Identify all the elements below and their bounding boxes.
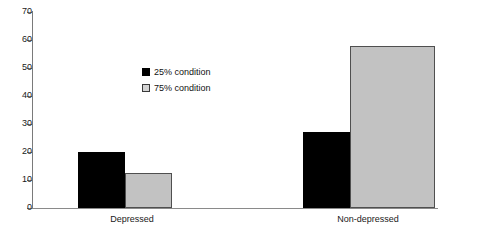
legend: 25% condition 75% condition [142,64,211,96]
bar-depressed-75 [125,173,172,208]
y-tick-label-70: 70 [10,7,32,16]
x-axis-label-depressed: Depressed [82,214,182,225]
bar-depressed-25 [78,152,125,208]
legend-swatch-icon-25 [142,68,150,76]
bar-chart: 70 60 50 40 30 20 10 0 [0,0,499,237]
x-axis-label-nondepressed: Non-depressed [318,214,418,225]
legend-item-25: 25% condition [142,64,211,80]
legend-swatch-icon-75 [142,84,150,92]
bar-nondepressed-25 [303,132,350,208]
plot-area: 70 60 50 40 30 20 10 0 [0,0,499,237]
y-axis-line [32,11,33,209]
y-tick-label-60: 60 [10,35,32,44]
legend-label-75: 75% condition [154,83,211,93]
legend-label-25: 25% condition [154,67,211,77]
y-tick-label-30: 30 [10,119,32,128]
y-tick-label-50: 50 [10,63,32,72]
y-tick-label-10: 10 [10,175,32,184]
y-tick-label-0: 0 [10,203,32,212]
x-axis-line [32,208,438,209]
bar-nondepressed-75 [350,46,435,208]
legend-item-75: 75% condition [142,80,211,96]
y-tick-label-40: 40 [10,91,32,100]
y-tick-label-20: 20 [10,147,32,156]
